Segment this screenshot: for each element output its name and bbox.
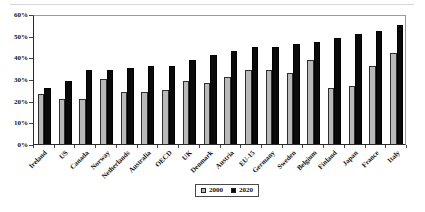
x-tick-mark bbox=[157, 145, 158, 148]
x-tick-mark bbox=[33, 145, 34, 148]
y-tick-mark bbox=[29, 37, 33, 38]
bar-group bbox=[75, 16, 96, 144]
x-tick-mark bbox=[344, 145, 345, 148]
bar-2020 bbox=[293, 44, 300, 144]
x-tick-mark bbox=[323, 145, 324, 148]
bar-2020 bbox=[44, 88, 51, 144]
bar-group bbox=[283, 16, 304, 144]
x-tick-mark bbox=[199, 145, 200, 148]
bar-2020 bbox=[127, 68, 134, 144]
x-tick-mark bbox=[302, 145, 303, 148]
bar-group bbox=[179, 16, 200, 144]
y-tick-mark bbox=[29, 123, 33, 124]
bar-group bbox=[386, 16, 407, 144]
bar-group bbox=[55, 16, 76, 144]
bar-2020 bbox=[169, 66, 176, 144]
bar-2020 bbox=[334, 38, 341, 144]
x-tick-mark bbox=[54, 145, 55, 148]
bar-group bbox=[158, 16, 179, 144]
bar-2020 bbox=[272, 47, 279, 145]
y-tick-label: 10% bbox=[2, 119, 28, 127]
plot-area bbox=[33, 15, 406, 145]
bar-2020 bbox=[189, 60, 196, 145]
y-tick-mark bbox=[29, 102, 33, 103]
x-tick-mark bbox=[385, 145, 386, 148]
bar-group bbox=[366, 16, 387, 144]
bar-2020 bbox=[231, 51, 238, 144]
x-tick-mark bbox=[137, 145, 138, 148]
bar-2020 bbox=[210, 55, 217, 144]
bar-2020 bbox=[86, 70, 93, 144]
x-tick-mark bbox=[116, 145, 117, 148]
x-tick-mark bbox=[95, 145, 96, 148]
y-tick-mark bbox=[29, 58, 33, 59]
bar-2020 bbox=[355, 34, 362, 145]
bar-group bbox=[303, 16, 324, 144]
x-tick-mark bbox=[178, 145, 179, 148]
bar-group bbox=[200, 16, 221, 144]
bar-2020 bbox=[252, 47, 259, 145]
bar-2020 bbox=[376, 31, 383, 144]
x-tick-mark bbox=[261, 145, 262, 148]
x-tick-mark bbox=[365, 145, 366, 148]
bar-2020 bbox=[314, 42, 321, 144]
bar-group bbox=[117, 16, 138, 144]
y-tick-mark bbox=[29, 80, 33, 81]
y-tick-label: 40% bbox=[2, 54, 28, 62]
bar-2020 bbox=[397, 25, 404, 144]
bar-group bbox=[221, 16, 242, 144]
bar-group bbox=[262, 16, 283, 144]
x-tick-mark bbox=[220, 145, 221, 148]
bar-group bbox=[34, 16, 55, 144]
bar-2020 bbox=[148, 66, 155, 144]
y-tick-label: 60% bbox=[2, 11, 28, 19]
top-rule-divider bbox=[10, 4, 414, 5]
bar-group bbox=[138, 16, 159, 144]
y-tick-label: 30% bbox=[2, 76, 28, 84]
y-tick-label: 20% bbox=[2, 98, 28, 106]
x-tick-mark bbox=[406, 145, 407, 148]
bar-2020 bbox=[65, 81, 72, 144]
y-tick-label: 50% bbox=[2, 33, 28, 41]
y-tick-mark bbox=[29, 15, 33, 16]
x-tick-mark bbox=[240, 145, 241, 148]
bar-2020 bbox=[107, 70, 114, 144]
x-tick-mark bbox=[282, 145, 283, 148]
bar-chart: 20002020 0%10%20%30%40%50%60%IrelandUSCa… bbox=[0, 0, 425, 212]
bar-group bbox=[345, 16, 366, 144]
bar-group bbox=[241, 16, 262, 144]
x-tick-mark bbox=[74, 145, 75, 148]
y-tick-label: 0% bbox=[2, 141, 28, 149]
bar-group bbox=[96, 16, 117, 144]
bar-group bbox=[324, 16, 345, 144]
legend-swatch-icon-2000 bbox=[201, 188, 206, 193]
